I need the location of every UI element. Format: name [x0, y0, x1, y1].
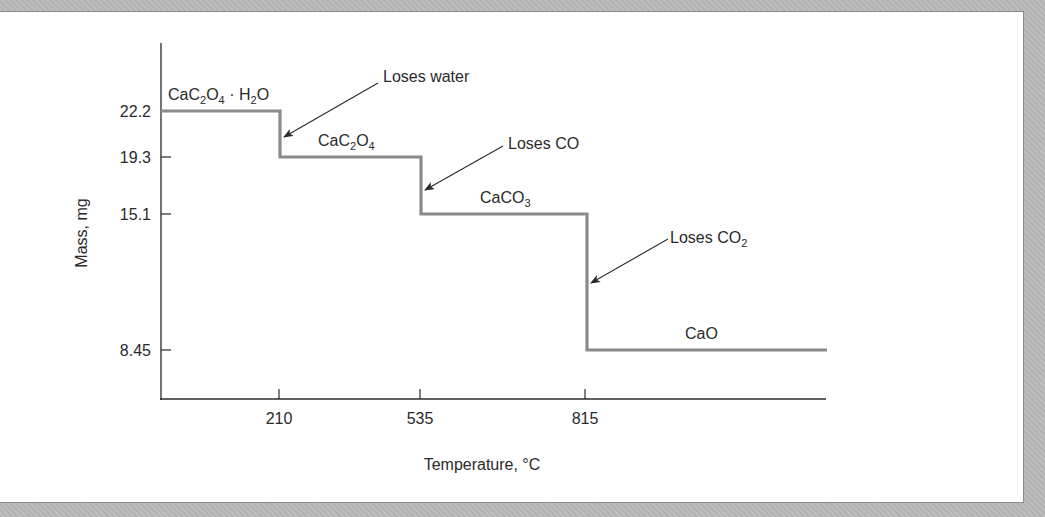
- species-label-cac2o4-h2o: CaC2O4 · H2O: [168, 86, 269, 106]
- x-axis-title: Temperature, °C: [424, 456, 541, 473]
- species-label-caco3: CaCO3: [480, 189, 531, 209]
- y-tick-label: 8.45: [120, 342, 151, 359]
- y-tick-label: 15.1: [120, 206, 151, 223]
- x-axis: [160, 389, 826, 399]
- annotation-loses-co2: Loses CO2: [591, 229, 747, 283]
- species-label-cac2o4: CaC2O4: [318, 132, 375, 152]
- annotation-loses-water: Loses water: [284, 68, 470, 137]
- arrow-icon: [284, 83, 378, 137]
- arrow-icon: [425, 146, 503, 190]
- x-tick-label: 535: [407, 410, 434, 427]
- svg-text:Loses CO2: Loses CO2: [670, 229, 747, 249]
- arrow-icon: [591, 239, 668, 283]
- svg-text:Loses CO: Loses CO: [508, 135, 579, 152]
- x-tick-label: 210: [266, 410, 293, 427]
- y-tick-label: 22.2: [120, 103, 151, 120]
- species-label-cao: CaO: [685, 325, 718, 342]
- tga-chart: 22.2 19.3 15.1 8.45 210 535 815 Temperat…: [0, 0, 1045, 517]
- y-axis-title: Mass, mg: [73, 198, 90, 267]
- annotation-loses-co: Loses CO: [425, 135, 579, 190]
- y-tick-label: 19.3: [120, 149, 151, 166]
- svg-text:Loses water: Loses water: [383, 68, 470, 85]
- x-tick-label: 815: [572, 410, 599, 427]
